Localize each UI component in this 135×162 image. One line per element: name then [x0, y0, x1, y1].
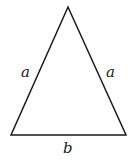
left-side-label: a — [21, 63, 30, 81]
right-side-label: a — [106, 63, 115, 81]
triangle-diagram: a a b — [0, 0, 135, 162]
base-label: b — [63, 139, 73, 157]
